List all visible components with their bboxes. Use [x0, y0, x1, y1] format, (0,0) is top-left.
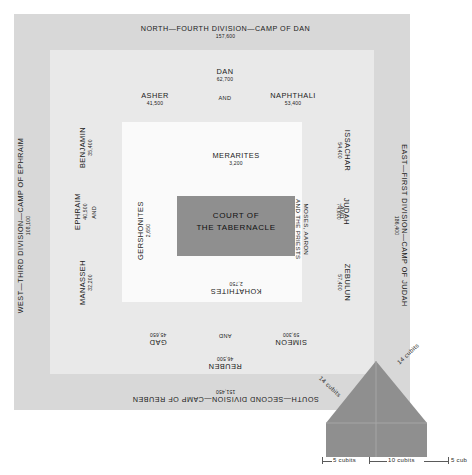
court-label-line2: THE TABERNACLE — [177, 222, 295, 234]
tribe-naphthali-number: 53,400 — [248, 101, 338, 107]
levite-kohathites-number: 2,750 — [182, 280, 290, 286]
scale-line-a — [322, 461, 332, 462]
tribe-naphthali: NAPHTHALI 53,400 — [248, 92, 338, 107]
court-label: COURT OF THE TABERNACLE — [177, 210, 295, 234]
west-conjunction: AND — [91, 182, 98, 242]
levite-merarites: MERARITES 3,200 — [182, 152, 290, 167]
tribe-dan-number: 62,700 — [185, 77, 265, 83]
tribe-reuben: REUBEN 46,500 — [185, 352, 265, 374]
tribe-reuben-number: 46,500 — [185, 355, 265, 361]
scale-tick-2 — [448, 457, 449, 464]
tribe-gad: GAD 45,650 — [118, 328, 198, 350]
moses-aaron-line1: MOSES, AARON — [302, 181, 310, 277]
scale-label-3: 5 cub — [451, 457, 467, 463]
tribe-gad-number: 45,650 — [118, 331, 198, 337]
tribe-reuben-name: REUBEN — [185, 362, 265, 371]
tribe-asher-number: 41,500 — [115, 101, 195, 107]
scale-tick-1 — [369, 457, 370, 464]
south-conjunction: AND — [195, 332, 255, 339]
levite-gershonites-number: 2,650 — [147, 186, 153, 276]
tribe-benjamin-number: 35,400 — [89, 108, 95, 188]
west-heading-total: 108,100 — [26, 0, 32, 451]
north-division-heading: NORTH—FOURTH DIVISION—CAMP OF DAN 157,60… — [0, 25, 451, 40]
tribe-asher: ASHER 41,500 — [115, 92, 195, 107]
tribe-gad-name: GAD — [118, 338, 198, 347]
scale-bar: 5 cubits 10 cubits 5 cub — [320, 455, 451, 473]
tribe-manasseh-number: 32,200 — [89, 243, 95, 323]
court-label-line1: COURT OF — [177, 210, 295, 222]
levite-kohathites-name: KOHATHITES — [182, 287, 290, 296]
tribe-dan: DAN 62,700 — [185, 68, 265, 83]
scale-label-1: 5 cubits — [333, 457, 356, 463]
tribe-simeon-number: 59,300 — [248, 331, 334, 337]
levite-merarites-number: 3,200 — [182, 161, 290, 167]
north-heading-total: 157,600 — [0, 34, 451, 40]
scale-line-d — [424, 461, 448, 462]
tent-shape-svg — [300, 345, 451, 463]
scale-label-2: 10 cubits — [388, 457, 415, 463]
levite-kohathites: KOHATHITES 2,750 — [182, 277, 290, 299]
north-conjunction: AND — [195, 95, 255, 102]
south-conjunction-wrap: AND — [195, 328, 255, 342]
tribe-benjamin: BENJAMIN 35,400 — [47, 108, 127, 188]
scale-line-c — [378, 461, 387, 462]
